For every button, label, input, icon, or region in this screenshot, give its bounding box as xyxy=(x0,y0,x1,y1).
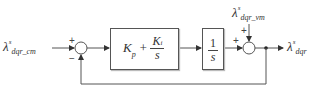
pi-controller-block: Kp + Ki s xyxy=(110,28,179,70)
input-sub: dqr_cm xyxy=(11,47,35,56)
sum1-minus-sign: − xyxy=(69,54,75,64)
input-sup: s xyxy=(9,38,12,46)
output-label: λsdqr xyxy=(287,40,307,53)
summing-junction-1 xyxy=(75,42,87,54)
plus-sign: + xyxy=(139,40,148,56)
integrator-fraction: 1 s xyxy=(208,37,218,63)
input-symbol: λ xyxy=(3,39,9,54)
ki-fraction: Ki s xyxy=(150,35,164,61)
disturbance-label: λsdqr_vm xyxy=(232,6,265,19)
summing-junction-2 xyxy=(243,42,255,54)
sum1-plus-sign: + xyxy=(69,36,75,46)
sum2-plus-top: + xyxy=(241,26,247,36)
sum2-plus-left: + xyxy=(233,36,239,46)
input-label: λsdqr_cm xyxy=(3,40,36,53)
kp-term: Kp xyxy=(123,40,136,56)
integrator-block: 1 s xyxy=(202,28,224,70)
